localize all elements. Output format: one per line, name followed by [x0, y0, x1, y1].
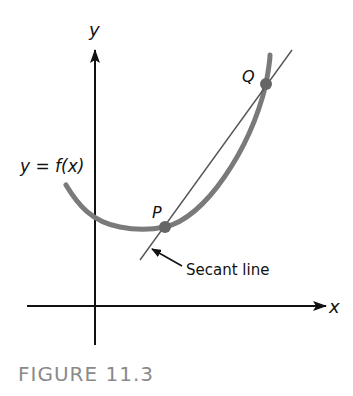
annotation-arrow [152, 249, 182, 266]
point-p-label: P [152, 203, 162, 222]
point-q [260, 78, 272, 90]
x-axis-label: x [328, 296, 340, 317]
secant-diagram: y x y = f(x) P Q Secant line [0, 0, 353, 396]
figure-caption: FIGURE 11.3 [18, 362, 154, 386]
point-q-label: Q [242, 67, 255, 86]
function-label: y = f(x) [19, 156, 84, 176]
secant-label: Secant line [186, 261, 269, 279]
function-curve [66, 55, 270, 229]
point-p [159, 221, 171, 233]
y-axis-label: y [88, 19, 100, 40]
